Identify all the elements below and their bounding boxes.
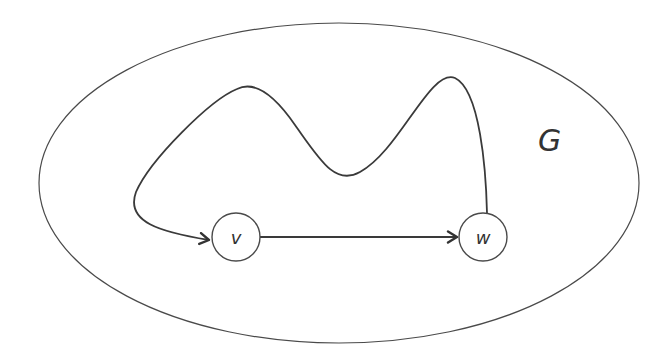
node-w-label: w <box>476 227 491 248</box>
graph-label: G <box>538 123 561 158</box>
node-v: v <box>212 213 260 261</box>
graph-diagram: G v w <box>0 0 668 360</box>
node-w: w <box>459 213 507 261</box>
node-v-label: v <box>231 227 242 248</box>
curved-path-edge <box>134 77 487 240</box>
graph-boundary <box>39 23 639 343</box>
